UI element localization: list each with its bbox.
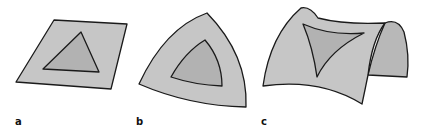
geometry-diagram	[0, 0, 424, 135]
panel-label-c: c	[261, 116, 267, 127]
panel-b-sphere	[139, 13, 246, 107]
panel-label-b: b	[136, 116, 143, 127]
panel-a-plane	[16, 20, 127, 89]
panel-label-a: a	[15, 116, 22, 127]
panel-c-saddle	[263, 8, 408, 104]
